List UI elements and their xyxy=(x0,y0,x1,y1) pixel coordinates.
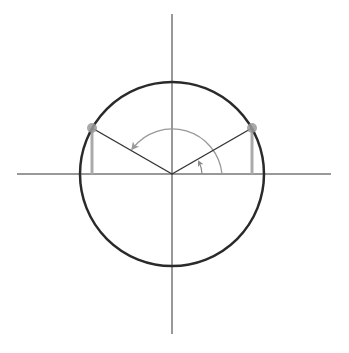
unit-circle-diagram xyxy=(0,0,349,353)
angle-arc-150 xyxy=(133,129,222,174)
diagram-svg xyxy=(0,0,349,353)
radius-right xyxy=(172,128,252,174)
point-right xyxy=(247,123,257,133)
point-left xyxy=(87,123,97,133)
radius-left xyxy=(92,128,172,174)
angle-arc-30 xyxy=(199,162,202,174)
